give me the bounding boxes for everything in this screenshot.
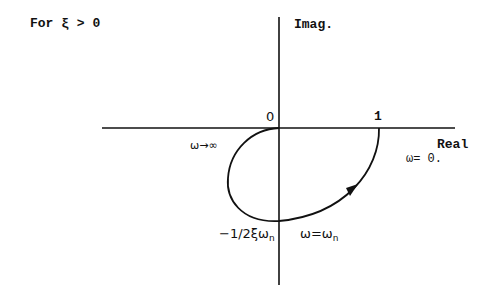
omega-infinity-label: ω→∞ bbox=[190, 140, 218, 151]
imag-axis-label: Imag. bbox=[294, 18, 333, 31]
nyquist-curve bbox=[228, 128, 379, 221]
omega-n-sub: n bbox=[333, 233, 339, 243]
imag-intercept-sub: n bbox=[269, 233, 275, 243]
omega-zero-label: ω= 0. bbox=[406, 153, 442, 165]
omega-n-main: ω=ω bbox=[300, 226, 333, 241]
omega-n-label: ω=ωn bbox=[300, 227, 338, 243]
diagram-graphics bbox=[0, 0, 497, 294]
imag-intercept-label: −1/2ξωn bbox=[219, 227, 275, 243]
nyquist-diagram: For ξ > 0 Imag. 0 1 Real ω→∞ ω= 0. −1/2ξ… bbox=[0, 0, 497, 294]
real-axis-label: Real bbox=[437, 138, 468, 151]
imag-intercept-main: −1/2ξω bbox=[219, 226, 269, 241]
one-label: 1 bbox=[374, 110, 382, 123]
origin-label: 0 bbox=[266, 110, 274, 123]
condition-title: For ξ > 0 bbox=[30, 17, 100, 30]
